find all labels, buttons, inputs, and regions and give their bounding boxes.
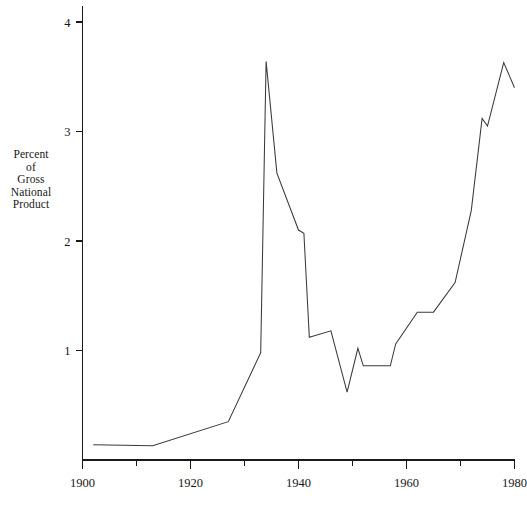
data-line-0 [93, 61, 514, 445]
y-tick-label-4: 4 [64, 16, 71, 30]
y-tick-label-3: 3 [64, 125, 70, 139]
line-plot: 1234 19001920194019601980 [0, 0, 527, 505]
x-tick-label-1920: 1920 [178, 476, 203, 490]
y-axis: 1234 [64, 6, 82, 460]
x-axis: 19001920194019601980 [70, 460, 527, 490]
x-tick-label-1980: 1980 [502, 476, 527, 490]
chart-figure: Percent of Gross National Product 1234 1… [0, 0, 527, 505]
data-series-group [93, 61, 514, 445]
y-tick-label-1: 1 [64, 344, 70, 358]
x-tick-label-1900: 1900 [70, 476, 95, 490]
y-tick-label-2: 2 [64, 235, 70, 249]
x-tick-label-1960: 1960 [394, 476, 419, 490]
x-tick-label-1940: 1940 [286, 476, 311, 490]
